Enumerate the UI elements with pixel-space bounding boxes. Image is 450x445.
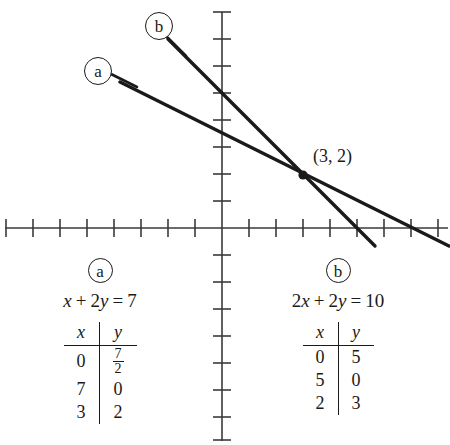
cell-y: 0 <box>338 369 374 392</box>
equation-a-rhs: 7 <box>127 290 137 311</box>
panel-a-circle-label: a <box>88 258 113 283</box>
panel-b-equation: 2x+2y=10 <box>248 290 428 312</box>
cell-x: 5 <box>303 369 339 392</box>
cell-x: 2 <box>303 392 339 415</box>
equation-a-plus: + <box>76 290 87 311</box>
equation-b-rhs: 10 <box>365 290 384 311</box>
table-row: 7 0 <box>64 378 137 401</box>
table-header-x: x <box>64 322 100 346</box>
table-header-y: y <box>338 322 374 346</box>
equation-b-var-x: x <box>301 290 309 311</box>
coordinate-graph-figure: a b (3, 2) a x+2y=7 x y 0 <box>0 0 450 445</box>
cell-x: 7 <box>64 378 100 401</box>
panel-a: a x+2y=7 x y 0 7 <box>10 258 190 428</box>
panel-a-equation: x+2y=7 <box>10 290 190 312</box>
panel-b-table-wrap: x y 0 5 5 0 2 3 <box>303 322 374 415</box>
panel-b: b 2x+2y=10 x y 0 5 5 <box>248 258 428 419</box>
panel-a-table-wrap: x y 0 7 2 7 <box>64 322 137 424</box>
callout-leader-b <box>167 37 186 56</box>
table-row: 5 0 <box>303 369 374 392</box>
intersection-point-label: (3, 2) <box>313 146 352 167</box>
panel-a-xy-table: x y 0 7 2 7 <box>64 322 137 424</box>
equation-b-plus: + <box>314 290 325 311</box>
fraction-numerator: 7 <box>113 347 124 362</box>
equation-b-coef-x: 2 <box>292 290 302 311</box>
cell-y: 3 <box>338 392 374 415</box>
equation-a-coef-y: 2 <box>91 290 101 311</box>
equation-a-equals: = <box>112 290 123 311</box>
table-header-row: x y <box>303 322 374 346</box>
table-header-y: y <box>99 322 137 346</box>
equation-a-var-y: y <box>100 290 108 311</box>
intersection-point-marker <box>298 170 307 179</box>
table-row: 2 3 <box>303 392 374 415</box>
cell-x: 0 <box>64 346 100 378</box>
panel-b-circle-label: b <box>326 258 351 283</box>
panel-b-xy-table: x y 0 5 5 0 2 3 <box>303 322 374 415</box>
equation-b-equals: = <box>350 290 361 311</box>
line-a <box>120 82 449 246</box>
table-header-x: x <box>303 322 339 346</box>
fraction-denominator: 2 <box>113 362 124 376</box>
cell-y: 7 2 <box>99 346 137 378</box>
table-row: 0 7 2 <box>64 346 137 378</box>
equation-b-coef-y: 2 <box>329 290 339 311</box>
table-row: 3 2 <box>64 401 137 424</box>
cell-y: 2 <box>99 401 137 424</box>
line-b <box>168 39 375 246</box>
equation-a-var-x: x <box>63 290 71 311</box>
cell-x: 3 <box>64 401 100 424</box>
equation-b-var-y: y <box>338 290 346 311</box>
callout-a: a <box>84 57 112 85</box>
cell-x: 0 <box>303 346 339 370</box>
table-row: 0 5 <box>303 346 374 370</box>
cell-y: 0 <box>99 378 137 401</box>
callout-b: b <box>145 12 173 40</box>
cell-y: 5 <box>338 346 374 370</box>
fraction-seven-halves: 7 2 <box>113 347 124 377</box>
table-header-row: x y <box>64 322 137 346</box>
